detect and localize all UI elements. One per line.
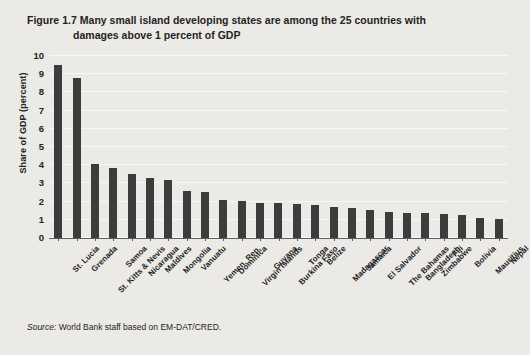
bar [219,200,227,238]
y-axis-tick-label: 10 [33,51,44,61]
bar-slot [416,56,434,238]
bar [495,219,503,238]
x-axis-tick [425,238,426,241]
bar-slot [141,56,159,238]
bar [256,203,264,238]
y-axis-tick-label: 1 [39,215,44,225]
x-axis-tick [223,238,224,241]
bar-slot [214,56,232,238]
y-axis-tick-label: 4 [39,160,44,170]
y-axis-tick-label: 0 [39,233,44,243]
y-axis-tick-label: 6 [39,124,44,134]
bar-chart: Share of GDP (percent) 012345678910 St. … [0,56,525,256]
x-axis-tick [150,238,151,241]
bar [91,164,99,238]
x-axis-tick [187,238,188,241]
bar-slot [379,56,397,238]
figure-number: Figure 1.7 [27,14,77,26]
bar [293,204,301,238]
x-axis-tick [297,238,298,241]
x-axis-category-label: Bolivia [473,244,498,269]
bars-group [49,56,508,238]
figure-title-line1: Many small island developing states are … [80,14,426,26]
bar-slot [435,56,453,238]
x-axis-tick [315,238,316,241]
bar [274,203,282,238]
bar-slot [49,56,67,238]
y-axis-tick-label: 3 [39,179,44,189]
source-text: World Bank staff based on EM-DAT/CRED. [59,322,222,332]
x-axis-tick [480,238,481,241]
bar-slot [251,56,269,238]
y-axis-tick-label: 5 [39,142,44,152]
x-axis-tick [462,238,463,241]
x-axis-tick [334,238,335,241]
bar-slot [178,56,196,238]
x-axis-tick [242,238,243,241]
y-axis-tick-label: 2 [39,197,44,207]
bar [476,218,484,238]
bar [385,212,393,238]
x-axis-tick [205,238,206,241]
bar-slot [288,56,306,238]
bar-slot [490,56,508,238]
bar-slot [471,56,489,238]
bar-slot [233,56,251,238]
y-axis-tick-label: 7 [39,106,44,116]
bar [201,192,209,238]
bar-slot [361,56,379,238]
x-axis-tick [444,238,445,241]
bar [403,213,411,238]
x-axis-tick [168,238,169,241]
bar-slot [196,56,214,238]
x-axis-category-label: Nepal [508,244,530,266]
bar [54,65,62,238]
y-axis-tick-labels: 012345678910 [24,56,44,238]
figure-title-line2: damages above 1 percent of GDP [27,28,497,43]
source-label: Source: [27,322,56,332]
x-axis-tick [352,238,353,241]
x-axis-tick [95,238,96,241]
bar [128,174,136,238]
bar [164,180,172,238]
bar [311,205,319,238]
x-axis-tick [389,238,390,241]
bar [421,213,429,238]
x-axis-tick [370,238,371,241]
x-axis-tick [113,238,114,241]
bar [458,215,466,238]
x-axis-tick [77,238,78,241]
bar-slot [159,56,177,238]
x-axis-tick [58,238,59,241]
y-axis-tick-label: 9 [39,69,44,79]
bar-slot [86,56,104,238]
page-title: Figure 1.7 Many small island developing … [27,13,497,42]
plot-area [49,56,508,238]
bar-slot [343,56,361,238]
bar [440,214,448,238]
bar-slot [306,56,324,238]
bar-slot [398,56,416,238]
bar-slot [122,56,140,238]
bar [109,168,117,238]
source-note: Source: World Bank staff based on EM-DAT… [27,322,221,332]
bar [238,201,246,238]
bar-slot [324,56,342,238]
bar-slot [104,56,122,238]
x-axis-tick [499,238,500,241]
y-axis-tick-label: 8 [39,88,44,98]
bar [348,208,356,238]
bar [366,210,374,238]
x-axis-category-labels: St. LuciaGrenadaSt. Kitts & NevisSamoaNi… [0,244,525,322]
x-axis-tick [279,238,280,241]
x-axis-tick [407,238,408,241]
x-axis-tick [132,238,133,241]
bar-slot [67,56,85,238]
bar [183,191,191,238]
x-axis-tick [260,238,261,241]
bar [146,178,154,238]
bar-slot [269,56,287,238]
bar-slot [453,56,471,238]
bar [330,207,338,238]
bar [73,78,81,238]
